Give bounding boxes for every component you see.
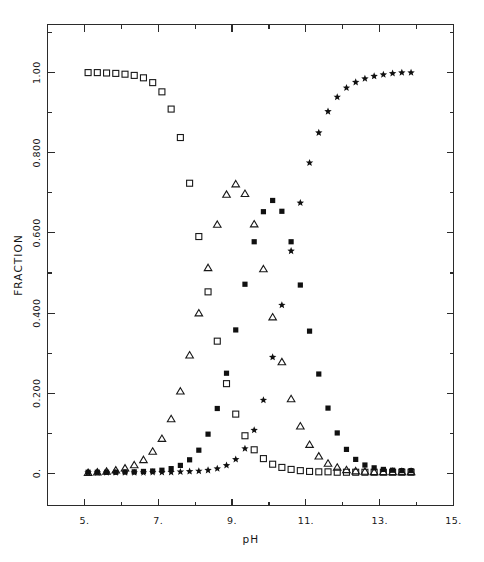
data-point-filled-square-35 — [408, 468, 413, 473]
x-tick-label-2: 9. — [227, 515, 237, 526]
data-point-filled-square-17 — [242, 282, 247, 287]
data-point-filled-square-16 — [233, 327, 238, 332]
data-point-filled-square-10 — [178, 463, 183, 468]
data-point-filled-square-11 — [187, 457, 192, 462]
data-point-filled-square-27 — [335, 430, 340, 435]
x-tick-label-5: 15. — [445, 515, 461, 526]
data-point-filled-square-29 — [353, 457, 358, 462]
data-point-filled-square-33 — [390, 468, 395, 473]
data-point-filled-square-19 — [261, 209, 266, 214]
figure-background — [0, 0, 484, 562]
data-point-filled-square-15 — [224, 371, 229, 376]
data-point-filled-square-28 — [344, 447, 349, 452]
data-point-filled-square-30 — [362, 462, 367, 467]
data-point-filled-square-26 — [325, 405, 330, 410]
x-tick-label-4: 13. — [372, 515, 388, 526]
data-point-filled-square-31 — [372, 465, 377, 470]
y-axis-title: FRACTION — [12, 234, 24, 296]
data-point-filled-square-13 — [205, 432, 210, 437]
data-point-filled-square-20 — [270, 198, 275, 203]
y-tick-label-4: 0.800 — [31, 138, 42, 167]
data-point-filled-square-25 — [316, 371, 321, 376]
data-point-filled-square-14 — [215, 406, 220, 411]
data-point-filled-square-32 — [381, 467, 386, 472]
data-point-filled-square-22 — [289, 239, 294, 244]
y-tick-label-1: 0.200 — [31, 379, 42, 408]
data-point-filled-square-18 — [252, 239, 257, 244]
data-point-filled-square-12 — [196, 448, 201, 453]
y-tick-label-3: 0.600 — [31, 218, 42, 247]
speciation-diagram-figure: 5.7.9.11.13.15. 0.0.2000.4000.6000.8001.… — [0, 0, 484, 562]
x-tick-label-3: 11. — [298, 515, 314, 526]
y-tick-label-5: 1.00 — [31, 61, 42, 84]
data-point-filled-square-21 — [279, 209, 284, 214]
x-axis-title: pH — [243, 533, 260, 545]
x-tick-label-0: 5. — [79, 515, 89, 526]
data-point-filled-square-34 — [399, 468, 404, 473]
data-point-filled-square-23 — [298, 282, 303, 287]
data-point-filled-square-24 — [307, 329, 312, 334]
y-tick-label-2: 0.400 — [31, 298, 42, 327]
y-tick-label-0: 0. — [31, 468, 42, 478]
x-tick-label-1: 7. — [153, 515, 163, 526]
plot-svg: 5.7.9.11.13.15. 0.0.2000.4000.6000.8001.… — [0, 0, 484, 562]
